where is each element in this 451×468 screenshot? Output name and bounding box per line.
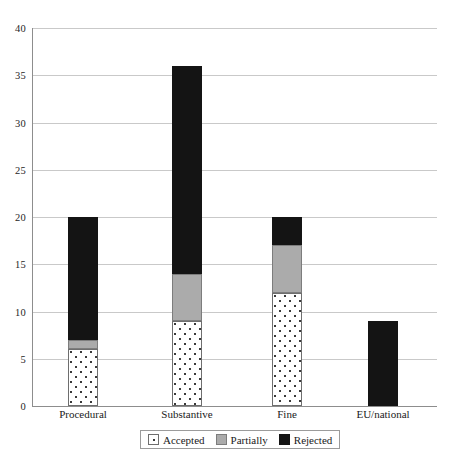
bar-segment-accepted[interactable] (68, 349, 98, 406)
y-tick-label: 25 (15, 164, 26, 175)
bar-segment-rejected[interactable] (272, 217, 302, 245)
y-axis-tick-labels: 0510152025303540 (0, 28, 26, 406)
gridline-0 (32, 406, 437, 407)
y-tick-label: 15 (15, 259, 26, 270)
bar-procedural[interactable] (68, 217, 98, 406)
x-axis-label-procedural: Procedural (59, 408, 107, 420)
bar-eu-national[interactable] (368, 321, 398, 406)
bar-segment-partially[interactable] (272, 245, 302, 292)
y-tick-label: 35 (15, 70, 26, 81)
x-axis-label-eu-national: EU/national (356, 408, 409, 420)
y-tick-label: 40 (15, 23, 26, 34)
bar-segment-partially[interactable] (172, 274, 202, 321)
y-tick-label: 10 (15, 306, 26, 317)
bar-segment-accepted[interactable] (172, 321, 202, 406)
rejected-swatch-icon (279, 434, 290, 445)
bar-segment-rejected[interactable] (172, 66, 202, 274)
bar-segment-accepted[interactable] (272, 293, 302, 406)
bar-segment-partially[interactable] (68, 340, 98, 349)
x-axis-label-fine: Fine (277, 408, 297, 420)
accepted-swatch-icon (148, 434, 159, 445)
legend-item-rejected[interactable]: Rejected (279, 434, 332, 446)
y-tick-label: 30 (15, 117, 26, 128)
bar-fine[interactable] (272, 217, 302, 406)
bar-segment-rejected[interactable] (68, 217, 98, 340)
y-tick-label: 0 (21, 401, 26, 412)
bar-substantive[interactable] (172, 66, 202, 406)
stacked-bar-chart: 0510152025303540 ProceduralSubstantiveFi… (0, 0, 451, 468)
y-tick-label: 5 (21, 353, 26, 364)
legend-label: Accepted (163, 434, 205, 446)
legend-item-accepted[interactable]: Accepted (148, 434, 205, 446)
chart-legend: AcceptedPartiallyRejected (140, 430, 340, 449)
bar-segment-rejected[interactable] (368, 321, 398, 406)
partially-swatch-icon (216, 434, 227, 445)
x-axis-category-labels: ProceduralSubstantiveFineEU/national (32, 408, 437, 426)
bars-layer (32, 28, 437, 406)
y-tick-label: 20 (15, 212, 26, 223)
legend-label: Rejected (294, 434, 332, 446)
legend-item-partially[interactable]: Partially (216, 434, 268, 446)
legend-label: Partially (231, 434, 268, 446)
x-axis-label-substantive: Substantive (161, 408, 212, 420)
